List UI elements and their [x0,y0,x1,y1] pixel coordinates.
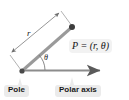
radius-label: r [27,29,31,38]
point-p-dot [69,24,75,30]
dimension-extension-upper [61,11,72,26]
point-p-label: P = (r, θ) [69,39,112,53]
polar-axis-callout-label: Polar axis [55,85,101,97]
pole-callout-leader [18,78,22,85]
dimension-extension-lower [10,55,21,70]
polar-coordinates-figure: r θ P = (r, θ) Pole Polar axis [0,0,129,100]
polar-axis-callout-leader [70,77,74,85]
pole-dot [19,68,24,73]
angle-label: θ [44,54,48,62]
pole-callout-label: Pole [4,85,29,97]
